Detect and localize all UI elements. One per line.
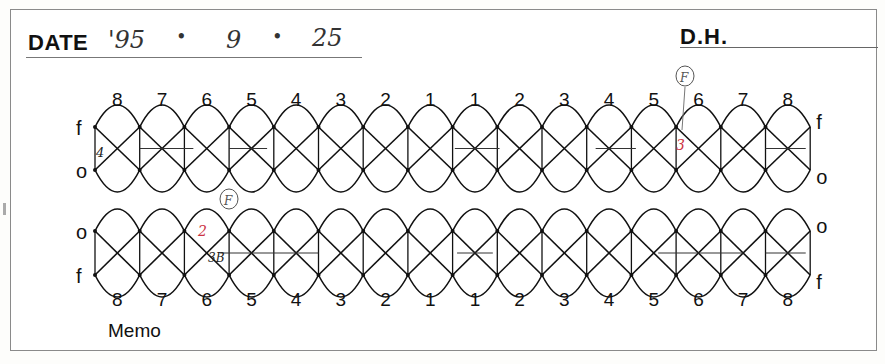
tooth-number: 8 (783, 289, 794, 310)
side-label-right-bottom: o (816, 166, 827, 188)
annotation-lower-3b: 3B (208, 251, 225, 265)
tooth-number: 7 (738, 89, 749, 110)
lower-arch-chart[interactable]: 8765432112345678ofof (76, 209, 827, 310)
tooth-cell[interactable] (719, 105, 766, 192)
tooth-number: 4 (604, 89, 615, 110)
tooth-number: 1 (425, 89, 436, 110)
tooth-number: 8 (112, 289, 123, 310)
side-label-left-bottom: o (76, 160, 87, 182)
tooth-number: 8 (112, 89, 123, 110)
tooth-number: 7 (157, 89, 168, 110)
tooth-cell[interactable] (93, 209, 140, 297)
side-label-left-bottom: f (76, 265, 82, 287)
upper-arch-chart[interactable]: 8765432112345678fofo (76, 89, 827, 192)
side-label-left-top: o (76, 221, 87, 243)
tooth-number: 2 (380, 89, 391, 110)
tooth-number: 5 (648, 289, 659, 310)
tooth-number: 1 (470, 89, 481, 110)
annotation-upper-8: 4 (95, 145, 104, 160)
tooth-number: 1 (425, 289, 436, 310)
tooth-number: 4 (291, 289, 302, 310)
tooth-number: 7 (738, 289, 749, 310)
tooth-number: 6 (201, 89, 212, 110)
side-label-right-bottom: f (816, 271, 822, 293)
side-label-left-top: f (76, 117, 82, 139)
tooth-cell[interactable] (361, 209, 408, 297)
tooth-number: 8 (783, 89, 794, 110)
tooth-cell[interactable] (317, 209, 364, 297)
tooth-number: 5 (648, 89, 659, 110)
tooth-number: 5 (246, 289, 257, 310)
tooth-number: 6 (693, 289, 704, 310)
tooth-number: 4 (291, 89, 302, 110)
tooth-cell[interactable] (585, 209, 632, 297)
memo-label: Memo (108, 320, 161, 342)
tooth-cell[interactable] (138, 209, 185, 297)
tooth-number: 1 (470, 289, 481, 310)
tooth-number: 4 (604, 289, 615, 310)
tooth-number: 2 (380, 289, 391, 310)
side-label-right-top: f (816, 111, 822, 133)
tooth-cell[interactable] (495, 209, 542, 297)
tooth-cell[interactable] (406, 105, 453, 192)
tooth-cell[interactable] (272, 105, 319, 192)
tooth-number: 2 (514, 89, 525, 110)
tooth-cell[interactable] (361, 105, 408, 192)
tooth-number: 6 (693, 89, 704, 110)
tooth-number: 3 (559, 289, 570, 310)
tooth-number: 6 (201, 289, 212, 310)
tooth-cell[interactable] (629, 105, 676, 192)
tooth-number: 5 (246, 89, 257, 110)
tooth-cell[interactable] (540, 209, 587, 297)
tooth-number: 3 (559, 89, 570, 110)
annotation-lower-2: 2 (197, 223, 207, 239)
annotation-upper-3: 3 (676, 137, 685, 153)
tooth-cell[interactable] (317, 105, 364, 192)
side-label-right-top: o (816, 215, 827, 237)
tooth-cell[interactable] (406, 209, 453, 297)
tooth-cell[interactable] (495, 105, 542, 192)
tooth-cell[interactable] (540, 105, 587, 192)
tooth-number: 2 (514, 289, 525, 310)
tooth-number: 7 (157, 289, 168, 310)
annotation-lower-f: F (223, 194, 233, 208)
periodontal-chart[interactable]: 8765432112345678fofo8765432112345678ofof… (0, 0, 885, 364)
tooth-number: 3 (336, 89, 347, 110)
tooth-number: 3 (336, 289, 347, 310)
annotation-upper-f: F (679, 71, 689, 85)
